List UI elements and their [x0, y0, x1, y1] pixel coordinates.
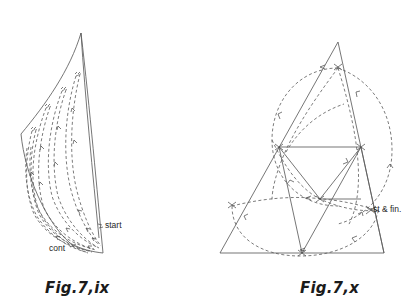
dashed-track-1: [66, 74, 101, 246]
fig-7-x-group: st & fin.: [220, 42, 401, 256]
label-st-and-fin: st & fin.: [373, 204, 401, 214]
dashed-arc-3: [232, 197, 380, 256]
dashed-track-2: [48, 89, 99, 248]
dashed-arc-1: [272, 68, 338, 206]
fig-7-ix-group: start cont: [21, 33, 122, 253]
caption-fig-7-ix: Fig.7,ix: [45, 279, 109, 297]
label-start: start: [105, 220, 122, 230]
caption-fig-7-x: Fig.7,x: [300, 279, 359, 297]
outer-triangle: [220, 42, 384, 253]
figures-canvas: .solid { fill:none; stroke:#5d5d5d; stro…: [0, 0, 406, 308]
dashed-arc-4: [272, 104, 380, 211]
inner-triangle: [279, 147, 384, 253]
label-cont: cont: [49, 243, 66, 253]
track-start-hooks: [31, 72, 80, 129]
direction-arrows-left: [30, 108, 96, 249]
figure-sheet: .solid { fill:none; stroke:#5d5d5d; stro…: [0, 0, 406, 308]
